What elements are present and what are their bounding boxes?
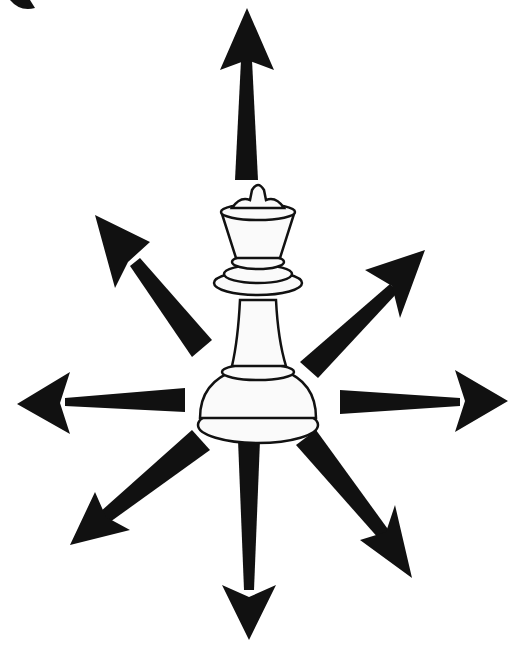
- arrow-southwest-icon: [70, 430, 210, 545]
- arrow-west-icon: [17, 372, 185, 434]
- corner-mark: [10, 0, 35, 9]
- queen-piece-icon: [198, 185, 318, 443]
- arrow-northeast-icon: [300, 250, 425, 378]
- queen-moves-diagram: [0, 0, 518, 657]
- arrow-south-icon: [222, 440, 276, 640]
- arrow-north-icon: [220, 8, 274, 180]
- arrow-east-icon: [340, 370, 508, 432]
- arrow-northwest-icon: [95, 215, 212, 357]
- arrow-southeast-icon: [296, 430, 412, 578]
